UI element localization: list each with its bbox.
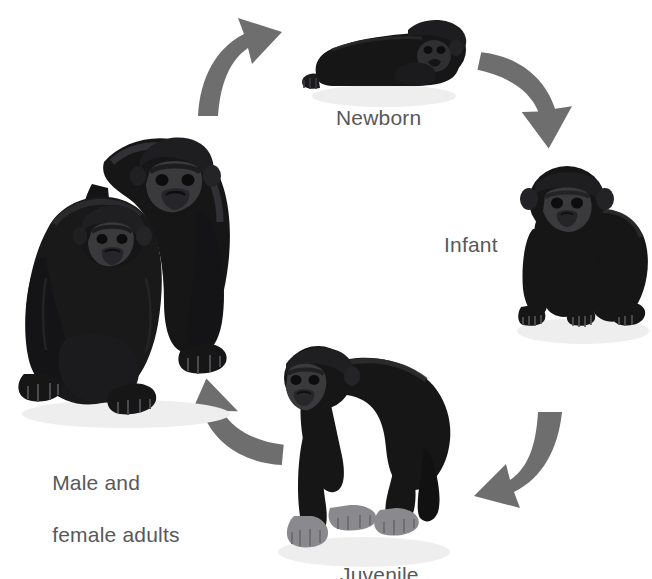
figure-juvenile [268, 330, 468, 570]
adult-female [18, 197, 161, 415]
figure-newborn [288, 0, 473, 110]
newborn-shadow [312, 85, 456, 107]
label-adults: Male and female adults [28, 444, 180, 574]
label-juvenile: Juvenile [340, 562, 419, 579]
arrow-adults-to-newborn [186, 8, 296, 118]
gorilla-life-cycle-diagram: Newborn [0, 0, 652, 579]
label-newborn: Newborn [336, 105, 421, 131]
label-adults-line1: Male and [52, 471, 140, 494]
arrow-infant-to-juvenile [452, 408, 570, 518]
label-infant: Infant [444, 232, 498, 258]
arrow-newborn-to-infant [466, 44, 581, 159]
figure-infant [505, 155, 652, 345]
label-adults-line2: female adults [52, 523, 180, 546]
figure-adults [8, 118, 248, 428]
